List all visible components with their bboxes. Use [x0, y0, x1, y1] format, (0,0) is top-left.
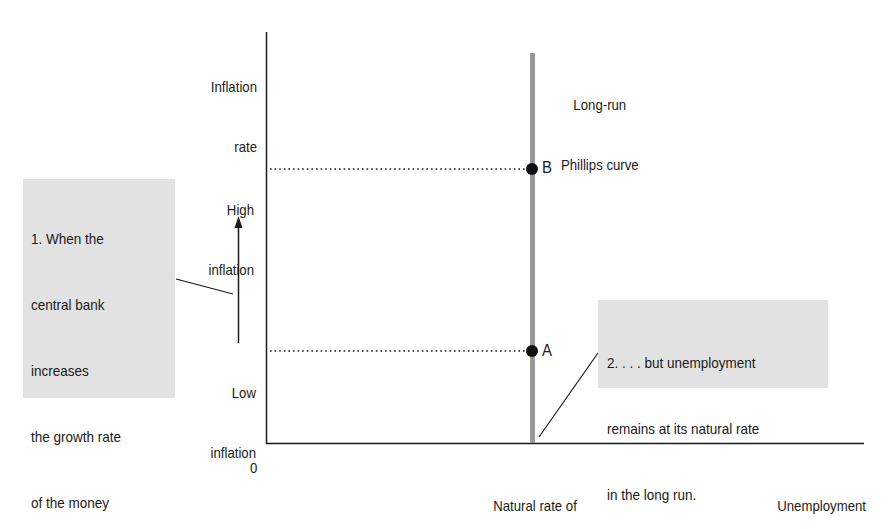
right-note-line: in the long run. — [607, 484, 798, 506]
low-inflation-label: Low inflation — [168, 343, 256, 483]
right-annotation-box: 2. . . . but unemployment remains at its… — [598, 300, 828, 388]
curve-label-line2: Phillips curve — [547, 155, 653, 175]
y-axis-label-line2: rate — [151, 137, 257, 157]
point-b-label: B — [542, 158, 552, 178]
point-a-label: A — [542, 341, 552, 361]
low-inflation-line2: inflation — [168, 443, 256, 463]
left-note-line: the growth rate — [31, 426, 153, 448]
curve-label-line1: Long-run — [547, 95, 653, 115]
left-note-line: central bank — [31, 294, 153, 316]
natural-rate-line1: Natural rate of — [460, 496, 610, 516]
y-axis-label: Inflation rate — [151, 37, 257, 177]
point-b-marker — [526, 163, 538, 175]
low-inflation-line1: Low — [168, 383, 256, 403]
y-axis-label-line1: Inflation — [151, 77, 257, 97]
left-annotation-box: 1. When the central bank increases the g… — [23, 179, 175, 398]
natural-rate-label: Natural rate of unemployment — [460, 456, 610, 529]
right-note-line: remains at its natural rate — [607, 418, 798, 440]
high-inflation-line2: inflation — [166, 260, 254, 280]
left-note-line: 1. When the — [31, 228, 153, 250]
left-note-line: increases — [31, 360, 153, 382]
right-note-leader — [539, 353, 598, 437]
high-inflation-label: High inflation — [166, 160, 254, 300]
right-note-line: 2. . . . but unemployment — [607, 352, 798, 374]
point-a-marker — [526, 345, 538, 357]
left-note-line: of the money — [31, 492, 153, 514]
origin-label: 0 — [250, 458, 257, 478]
curve-label: Long-run Phillips curve — [547, 55, 653, 195]
high-inflation-line1: High — [166, 200, 254, 220]
